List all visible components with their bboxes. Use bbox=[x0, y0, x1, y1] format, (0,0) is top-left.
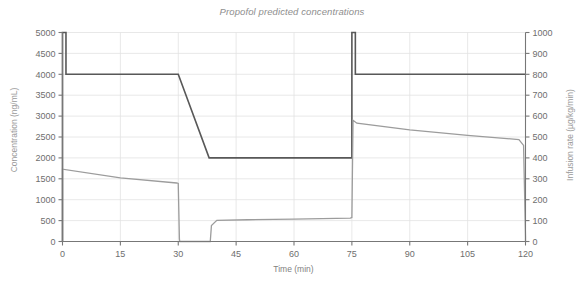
x-tick-label: 105 bbox=[460, 249, 475, 259]
y-tick-label-right: 500 bbox=[533, 132, 548, 142]
y-tick-label-left: 4000 bbox=[35, 70, 55, 80]
x-tick-label: 60 bbox=[289, 249, 299, 259]
y-tick-label-right: 1000 bbox=[533, 28, 553, 38]
y-tick-label-right: 0 bbox=[533, 237, 538, 247]
y-tick-label-left: 2000 bbox=[35, 153, 55, 163]
chart-figure: Propofol predicted concentrations Concen… bbox=[0, 0, 584, 284]
y-tick-label-left: 3500 bbox=[35, 90, 55, 100]
x-tick-label: 30 bbox=[173, 249, 183, 259]
y-tick-label-right: 700 bbox=[533, 90, 548, 100]
x-tick-label: 75 bbox=[347, 249, 357, 259]
y-tick-label-left: 500 bbox=[40, 216, 55, 226]
y-tick-label-right: 100 bbox=[533, 216, 548, 226]
y-tick-label-right: 600 bbox=[533, 111, 548, 121]
x-tick-label: 0 bbox=[60, 249, 65, 259]
y-tick-label-left: 3000 bbox=[35, 111, 55, 121]
x-tick-label: 15 bbox=[115, 249, 125, 259]
y-tick-label-right: 200 bbox=[533, 195, 548, 205]
y-tick-label-left: 2500 bbox=[35, 132, 55, 142]
y-tick-label-right: 800 bbox=[533, 70, 548, 80]
y-tick-label-right: 300 bbox=[533, 174, 548, 184]
y-tick-label-left: 1500 bbox=[35, 174, 55, 184]
x-tick-label: 120 bbox=[518, 249, 533, 259]
y-tick-label-left: 4500 bbox=[35, 49, 55, 59]
y-tick-label-left: 1000 bbox=[35, 195, 55, 205]
chart-plot-area: 0500100015002000250030003500400045005000… bbox=[0, 0, 584, 284]
x-tick-label: 45 bbox=[231, 249, 241, 259]
y-tick-label-left: 0 bbox=[50, 237, 55, 247]
y-tick-label-left: 5000 bbox=[35, 28, 55, 38]
grid-lines bbox=[63, 33, 526, 242]
y-tick-label-right: 900 bbox=[533, 49, 548, 59]
x-tick-label: 90 bbox=[405, 249, 415, 259]
y-tick-label-right: 400 bbox=[533, 153, 548, 163]
